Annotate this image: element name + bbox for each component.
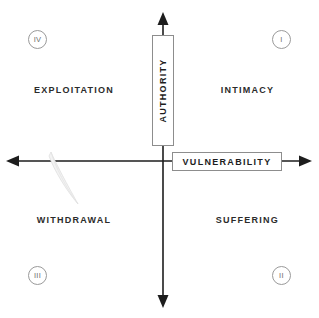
quadrant-marker-iv: IV xyxy=(28,30,47,49)
up-arrowhead-icon xyxy=(158,12,169,25)
x-axis-label-text: VULNERABILITY xyxy=(183,157,272,167)
quadrant-label-exploitation: EXPLOITATION xyxy=(0,86,148,95)
quadrant-label-withdrawal: WITHDRAWAL xyxy=(0,216,148,225)
quadrant-marker-i: I xyxy=(272,30,291,49)
quadrant-marker-ii-text: II xyxy=(279,272,284,280)
quadrant-label-intimacy: INTIMACY xyxy=(176,86,319,95)
left-arrowhead-icon xyxy=(6,156,19,167)
quadrant-marker-i-text: I xyxy=(280,36,282,44)
quadrant-marker-iii-text: III xyxy=(34,272,41,280)
y-axis-label-box: AUTHORITY xyxy=(152,35,174,146)
quadrant-marker-iv-text: IV xyxy=(34,36,42,44)
quadrant-diagram: EXPLOITATION INTIMACY WITHDRAWAL SUFFERI… xyxy=(0,0,319,318)
x-axis-label-box: VULNERABILITY xyxy=(172,152,282,171)
y-axis-label-text: AUTHORITY xyxy=(159,58,168,122)
quadrant-marker-ii: II xyxy=(272,266,291,285)
right-arrowhead-icon xyxy=(299,156,312,167)
quadrant-label-suffering: SUFFERING xyxy=(176,216,319,225)
down-arrowhead-icon xyxy=(158,295,169,308)
quadrant-marker-iii: III xyxy=(28,266,47,285)
